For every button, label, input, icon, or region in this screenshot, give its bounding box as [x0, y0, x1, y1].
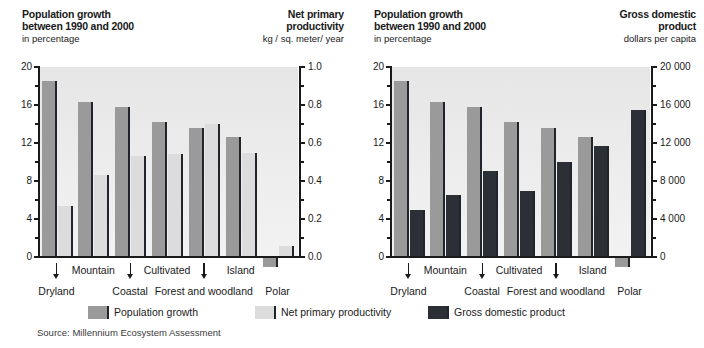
- bar-fill: [205, 124, 218, 257]
- heading-line-2: productivity: [263, 21, 344, 33]
- bar-fill: [189, 128, 202, 257]
- legend-swatch-pop: [88, 306, 107, 319]
- axis-tick-mark: [301, 218, 305, 220]
- bar-fill: [594, 146, 607, 257]
- bar-fill: [78, 102, 91, 257]
- axis-minor-tick-mark: [301, 123, 304, 125]
- bar-fill: [578, 137, 591, 257]
- bar-shadow-edge: [459, 195, 461, 257]
- axis-tick-label: 12: [358, 138, 384, 148]
- bar-population-growth-dryland: [394, 81, 407, 257]
- legend: Population growthNet primary productivit…: [0, 303, 704, 323]
- axis-minor-tick-mark: [653, 123, 656, 125]
- bar-shadow-edge: [55, 81, 57, 257]
- y-axis-left-spine: [38, 66, 40, 258]
- category-label-forest-and-woodland: Forest and woodland: [146, 286, 262, 297]
- axis-tick-label: 4 000: [660, 214, 704, 224]
- axis-minor-tick-mark: [35, 161, 38, 163]
- category-label-dryland: Dryland: [29, 286, 83, 297]
- heading-line-2: between 1990 and 2000: [374, 21, 486, 33]
- legend-label: Net primary productivity: [281, 306, 391, 318]
- left-panel-right-axis-heading: Net primary productivity kg / sq. meter/…: [263, 9, 344, 45]
- axis-minor-tick-mark: [387, 237, 390, 239]
- bar-fill: [446, 195, 459, 257]
- axis-tick-mark: [653, 180, 657, 182]
- axis-tick-label: 20 000: [660, 62, 704, 72]
- bar-population-growth-mountain: [430, 102, 443, 257]
- bar-shadow-edge: [480, 107, 482, 257]
- axis-minor-tick-mark: [387, 85, 390, 87]
- legend-swatch-fill: [88, 306, 107, 319]
- axis-tick-label: 4: [358, 214, 384, 224]
- bar-population-growth-coastal: [115, 107, 128, 257]
- source-note: Source: Millennium Ecosystem Assessment: [37, 327, 221, 338]
- bar-fill: [242, 153, 255, 258]
- axis-minor-tick-mark: [387, 161, 390, 163]
- axis-minor-tick-mark: [35, 237, 38, 239]
- axis-minor-tick-mark: [387, 123, 390, 125]
- bar-net-primary-productivity-dryland: [58, 206, 71, 257]
- axis-tick-label: 16 000: [660, 100, 704, 110]
- legend-swatch-npp: [255, 306, 274, 319]
- heading-units: dollars per capita: [619, 32, 696, 45]
- heading-line-1: Population growth: [22, 9, 134, 21]
- heading-units: in percentage: [22, 32, 134, 45]
- bar-gross-domestic-product-cultivated: [520, 191, 533, 258]
- axis-tick-label: 0.8: [308, 100, 354, 110]
- category-label-mountain: Mountain: [415, 265, 475, 276]
- heading-units: in percentage: [374, 32, 486, 45]
- category-label-dryland: Dryland: [381, 286, 435, 297]
- axis-tick-mark: [301, 66, 305, 68]
- bar-fill: [115, 107, 128, 257]
- axis-minor-tick-mark: [301, 85, 304, 87]
- bar-shadow-edge: [644, 110, 646, 257]
- bar-fill: [226, 137, 239, 257]
- heading-units: kg / sq. meter/ year: [263, 32, 344, 45]
- bar-population-growth-dryland: [42, 81, 55, 257]
- bar-shadow-edge: [607, 146, 609, 257]
- left-panel-left-axis-heading: Population growth between 1990 and 2000 …: [22, 9, 134, 45]
- axis-minor-tick-mark: [35, 123, 38, 125]
- legend-swatch-edge: [107, 306, 109, 319]
- bar-fill: [520, 191, 533, 258]
- axis-minor-tick-mark: [387, 199, 390, 201]
- chart-panel-right: Population growth between 1990 and 2000 …: [352, 0, 704, 300]
- bar-fill: [94, 175, 107, 257]
- axis-tick-label: 12 000: [660, 138, 704, 148]
- legend-swatch-fill: [428, 306, 447, 319]
- axis-tick-label: 16: [358, 100, 384, 110]
- bar-population-growth-cultivated: [152, 122, 165, 257]
- bar-fill: [467, 107, 480, 257]
- source-text: Millennium Ecosystem Assessment: [72, 327, 220, 338]
- axis-minor-tick-mark: [35, 85, 38, 87]
- bar-gross-domestic-product-dryland: [410, 210, 423, 258]
- category-labels-left: DrylandMountainCoastalCultivatedForest a…: [0, 256, 352, 300]
- bar-shadow-edge: [496, 171, 498, 257]
- axis-tick-mark: [386, 104, 390, 106]
- axis-tick-label: 16: [6, 100, 32, 110]
- axis-tick-label: 0.6: [308, 138, 354, 148]
- bar-shadow-edge: [255, 153, 257, 258]
- category-pointer-arrow-icon: [479, 263, 486, 282]
- legend-item-gdp: Gross domestic product: [428, 303, 565, 321]
- axis-tick-mark: [301, 180, 305, 182]
- right-panel-right-axis-heading: Gross domestic product dollars per capit…: [619, 9, 696, 45]
- axis-tick-label: 8: [358, 176, 384, 186]
- bar-population-growth-forest-and-woodland: [541, 128, 554, 257]
- bar-gross-domestic-product-island: [594, 146, 607, 257]
- bar-gross-domestic-product-forest-and-woodland: [557, 162, 570, 257]
- category-pointer-arrow-icon: [552, 263, 559, 282]
- axis-tick-mark: [653, 142, 657, 144]
- bar-shadow-edge: [591, 137, 593, 257]
- right-panel-left-axis-heading: Population growth between 1990 and 2000 …: [374, 9, 486, 45]
- axis-tick-mark: [34, 142, 38, 144]
- axis-minor-tick-mark: [35, 199, 38, 201]
- plot-area-right: [392, 67, 650, 257]
- bar-fill: [557, 162, 570, 257]
- bar-net-primary-productivity-coastal: [131, 156, 144, 257]
- category-label-cultivated: Cultivated: [135, 265, 199, 276]
- legend-swatch-edge: [274, 306, 276, 319]
- axis-minor-tick-mark: [653, 199, 656, 201]
- heading-line-1: Population growth: [374, 9, 486, 21]
- axis-tick-label: 20: [6, 62, 32, 72]
